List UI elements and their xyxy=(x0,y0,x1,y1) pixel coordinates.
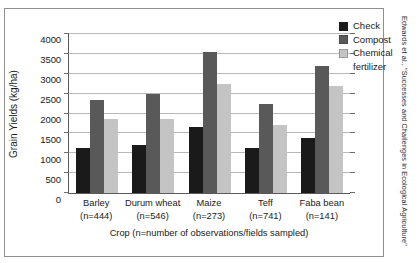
bar xyxy=(104,119,118,193)
bar xyxy=(217,84,231,193)
bar-groups xyxy=(69,34,350,193)
category-name: Durum wheat xyxy=(124,197,180,210)
category-name: Teff xyxy=(237,197,293,210)
bar-group xyxy=(69,34,125,193)
bar xyxy=(76,148,90,193)
bar xyxy=(132,145,146,193)
category-name: Faba bean xyxy=(294,197,350,210)
bar xyxy=(273,125,287,193)
y-axis-tick-mark xyxy=(350,132,355,133)
x-axis-category-labels: Barley(n=444)Durum wheat(n=546)Maize(n=2… xyxy=(68,197,350,222)
x-axis-category-label: Barley(n=444) xyxy=(68,197,124,222)
x-axis-category-label: Durum wheat(n=546) xyxy=(124,197,180,222)
category-name: Maize xyxy=(181,197,237,210)
legend-label: Compost xyxy=(353,34,391,46)
y-axis-tick-mark xyxy=(350,192,355,193)
bar xyxy=(189,127,203,193)
legend-swatch xyxy=(339,35,348,44)
x-axis-title: Crop (n=number of observations/fields sa… xyxy=(68,228,350,238)
category-sample-size: (n=741) xyxy=(237,210,293,223)
legend-swatch xyxy=(339,22,348,31)
legend-item: Compost xyxy=(339,34,393,46)
category-sample-size: (n=546) xyxy=(124,210,180,223)
bar-group xyxy=(181,34,237,193)
x-axis-category-label: Faba bean(n=141) xyxy=(294,197,350,222)
category-sample-size: (n=273) xyxy=(181,210,237,223)
side-citation-text: Edwards et al., "Successes and Challenge… xyxy=(400,16,409,246)
x-axis-category-label: Maize(n=273) xyxy=(181,197,237,222)
bar xyxy=(301,138,315,193)
legend-label: Chemical xyxy=(353,47,393,59)
bar xyxy=(329,86,343,193)
y-axis-tick-mark xyxy=(350,73,355,74)
legend-label-continuation: fertilizer xyxy=(353,61,393,73)
category-name: Barley xyxy=(68,197,124,210)
plot-area: 05001000150020002500300035004000 xyxy=(68,34,350,194)
legend-swatch xyxy=(339,49,348,58)
y-axis-tick-mark xyxy=(350,93,355,94)
y-axis-tick-mark xyxy=(350,172,355,173)
bar-group xyxy=(238,34,294,193)
bar xyxy=(90,100,104,193)
bar xyxy=(245,148,259,193)
bar xyxy=(259,104,273,193)
legend-item: Check xyxy=(339,20,393,32)
bar xyxy=(315,66,329,193)
bar xyxy=(160,119,174,193)
category-sample-size: (n=141) xyxy=(294,210,350,223)
x-axis-category-label: Teff(n=741) xyxy=(237,197,293,222)
bar xyxy=(146,94,160,193)
figure-frame: Grain Yields (kg/ha) 0500100015002000250… xyxy=(4,8,384,257)
legend-label: Check xyxy=(353,20,380,32)
legend-item: Chemical xyxy=(339,47,393,59)
bar xyxy=(203,52,217,193)
legend: CheckCompostChemicalfertilizer xyxy=(339,20,393,72)
category-sample-size: (n=444) xyxy=(68,210,124,223)
y-axis-tick-mark xyxy=(350,113,355,114)
y-axis-tick-mark xyxy=(350,152,355,153)
bar-group xyxy=(125,34,181,193)
y-axis-title: Grain Yields (kg/ha) xyxy=(8,70,19,158)
